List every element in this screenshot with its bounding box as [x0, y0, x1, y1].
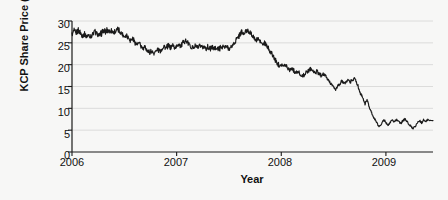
chart-figure: KCP Share Price ($) 30 25 20 15 10 5 0 2… — [0, 0, 448, 200]
data-series-line — [72, 27, 433, 129]
plot-canvas — [0, 0, 448, 200]
x-axis-tick-marks — [72, 152, 386, 156]
